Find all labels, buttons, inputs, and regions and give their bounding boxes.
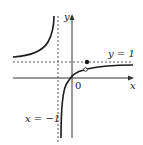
vertical-asymptote-label: x = −1 <box>25 113 60 124</box>
open-point <box>84 68 88 72</box>
origin-label: 0 <box>75 80 81 91</box>
y-axis-label: y <box>63 11 70 22</box>
function-graph: y x 0 y = 1 x = −1 <box>0 0 143 145</box>
curve-right-tail <box>87 65 133 69</box>
filled-point <box>85 60 89 64</box>
horizontal-asymptote-label: y = 1 <box>107 48 135 59</box>
curve-left-branch <box>13 16 54 57</box>
x-axis-label: x <box>130 80 136 91</box>
y-axis-arrow-icon <box>70 14 75 20</box>
